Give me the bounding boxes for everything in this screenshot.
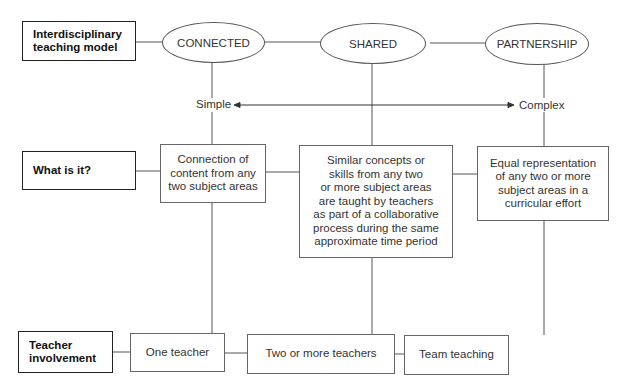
description-connected: Connection of content from any two subje… [160,144,266,203]
row-label-what: What is it? [22,151,136,190]
description-partnership: Equal representation of any two or more … [477,146,609,221]
model-partnership: PARTNERSHIP [485,23,589,65]
double-headed-arrow [234,103,514,108]
teacher-shared: Two or more teachers [247,334,395,374]
teacher-connected: One teacher [130,333,225,372]
model-shared: SHARED [320,23,426,64]
row-label-teacher: Teacher involvement [18,331,113,373]
model-connected: CONNECTED [162,22,265,63]
row-label-model: Interdisciplinary teaching model [22,21,136,61]
description-shared: Similar concepts or skills from any two … [299,145,453,258]
scale-complex-label: Complex [519,99,564,111]
teacher-partnership: Team teaching [404,335,509,375]
scale-simple-label: Simple [196,98,231,110]
